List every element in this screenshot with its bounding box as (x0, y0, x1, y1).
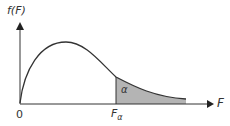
critical-value-label: Fα (111, 107, 123, 122)
area-label: α (121, 84, 128, 95)
critical-label-subscript: α (117, 113, 122, 122)
origin-label: 0 (16, 108, 23, 121)
y-axis-label: f(F) (7, 4, 26, 17)
y-axis-arrow (16, 22, 24, 30)
x-axis-arrow (207, 100, 214, 108)
density-curve (20, 42, 186, 103)
x-axis-label: F (217, 96, 224, 110)
